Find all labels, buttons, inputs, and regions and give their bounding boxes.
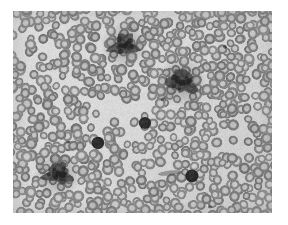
blood-smear-canvas [13,11,272,213]
figure-subject: peripheral blood smear [0,0,1,1]
micrograph-image [13,11,272,213]
figure-title: Peripheral blood smear photomicrograph [0,0,1,1]
micrograph-figure: Peripheral blood smear photomicrograph p… [0,0,288,225]
